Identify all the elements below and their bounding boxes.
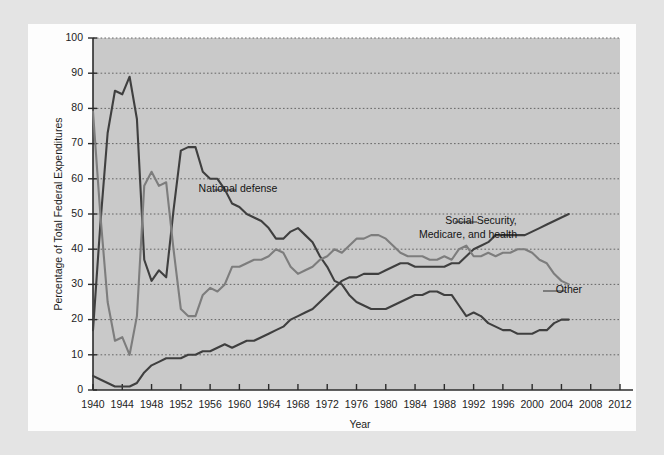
chart-figure: 0102030405060708090100 19401944194819521… [0, 0, 664, 455]
x-tick-label-1968: 1968 [286, 398, 310, 410]
y-tick-label-70: 70 [71, 136, 83, 148]
x-tick-label-2008: 2008 [579, 398, 603, 410]
x-tick-label-1964: 1964 [257, 398, 281, 410]
y-tick-label-80: 80 [71, 101, 83, 113]
page-background: 0102030405060708090100 19401944194819521… [0, 0, 664, 455]
x-tick-label-1992: 1992 [462, 398, 486, 410]
x-tick-label-1980: 1980 [374, 398, 398, 410]
y-tick-label-40: 40 [71, 242, 83, 254]
x-tick-label-1952: 1952 [169, 398, 193, 410]
x-tick-label-2012: 2012 [608, 398, 632, 410]
x-tick-label-1956: 1956 [198, 398, 222, 410]
x-tick-label-1972: 1972 [316, 398, 340, 410]
annotation-label-0: National defense [199, 182, 278, 194]
x-tick-label-1960: 1960 [228, 398, 252, 410]
x-tick-label-1940: 1940 [81, 398, 105, 410]
x-tick-label-1996: 1996 [491, 398, 515, 410]
y-tick-label-50: 50 [71, 207, 83, 219]
y-tick-label-10: 10 [71, 348, 83, 360]
x-tick-label-2000: 2000 [520, 398, 544, 410]
y-tick-label-30: 30 [71, 277, 83, 289]
y-tick-label-90: 90 [71, 66, 83, 78]
x-axis-title: Year [349, 418, 371, 430]
y-tick-label-20: 20 [71, 312, 83, 324]
y-axis-title: Percentage of Total Federal Expenditures [52, 117, 64, 310]
y-tick-label-0: 0 [77, 383, 83, 395]
x-tick-label-1976: 1976 [345, 398, 369, 410]
annotation-label-3: Other [556, 283, 583, 295]
x-tick-label-1984: 1984 [403, 398, 427, 410]
x-tick-label-1948: 1948 [140, 398, 164, 410]
x-tick-label-1944: 1944 [111, 398, 135, 410]
x-tick-label-2004: 2004 [550, 398, 574, 410]
y-tick-label-100: 100 [65, 31, 83, 43]
x-axis-tick-labels: 1940194419481952195619601964196819721976… [81, 398, 632, 410]
y-tick-label-60: 60 [71, 172, 83, 184]
x-tick-label-1988: 1988 [433, 398, 457, 410]
annotation-label-2: Medicare, and health [419, 228, 517, 240]
annotation-label-1: Social Security, [445, 214, 517, 226]
y-axis-tick-labels: 0102030405060708090100 [65, 31, 83, 395]
